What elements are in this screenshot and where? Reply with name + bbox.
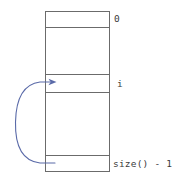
diagram-canvas: 0 i size() - 1: [0, 0, 183, 186]
array-box-outline: [46, 12, 110, 172]
array-box: [46, 12, 110, 172]
cell-label-current-index: i: [117, 79, 123, 89]
cell-label-first-index: 0: [114, 14, 120, 24]
cell-label-last-index: size() - 1: [113, 159, 172, 169]
